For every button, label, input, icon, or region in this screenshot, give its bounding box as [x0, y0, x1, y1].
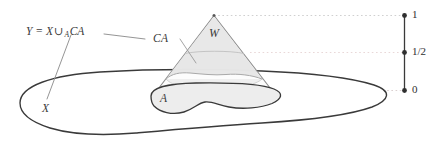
axis-tick-point-0: [402, 88, 407, 93]
axis-tick-label-half: 1/2: [412, 46, 426, 57]
label-open-set-W: W: [209, 27, 219, 39]
leader-line-to-cone: [104, 34, 145, 39]
label-Y-prefix: Y = X: [26, 25, 53, 37]
axis-tick-label-0: 0: [412, 84, 418, 95]
mapping-cone-figure: Y = X∪ACA CA W A X 1 1/2 0: [0, 0, 441, 142]
axis-tick-label-1: 1: [412, 9, 418, 20]
figure-canvas: [0, 0, 441, 142]
axis-tick-point-1: [402, 13, 407, 18]
interval-axis: [402, 13, 407, 93]
label-Y-suffix: CA: [70, 25, 85, 37]
label-cone: CA: [153, 33, 168, 45]
label-base-space-X: X: [42, 103, 49, 115]
axis-tick-point-half: [402, 50, 407, 55]
label-subspace-A: A: [160, 93, 167, 105]
label-Y-space: Y = X∪ACA: [26, 26, 84, 39]
union-operator-icon: ∪: [53, 25, 65, 37]
